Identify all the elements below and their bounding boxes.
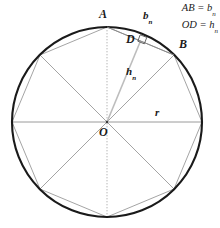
label-center-o: O xyxy=(99,126,108,138)
chord-ab xyxy=(107,27,174,55)
label-side-base: b xyxy=(143,9,149,21)
label-apothem-subscript: n xyxy=(132,74,136,82)
geometry-figure: A B D O r bn hn AB = bn OD = hn xyxy=(0,0,220,228)
legend-line-ab-subscript: n xyxy=(212,10,216,18)
label-point-d: D xyxy=(126,33,135,45)
point-marker-center-o xyxy=(106,121,108,123)
legend-line-od-text: OD = h xyxy=(182,19,215,30)
label-vertex-b: B xyxy=(179,38,187,50)
label-side-bn: bn xyxy=(143,10,152,24)
label-apothem-hn: hn xyxy=(126,66,136,80)
label-radius-r: r xyxy=(155,107,159,118)
label-vertex-a: A xyxy=(99,8,107,20)
legend-line-od-subscript: n xyxy=(215,27,219,35)
legend-definitions: AB = bn OD = hn xyxy=(182,1,218,34)
legend-line-od: OD = hn xyxy=(182,18,218,35)
legend-line-ab-text: AB = b xyxy=(182,2,212,13)
legend-line-ab: AB = bn xyxy=(182,1,218,18)
label-side-subscript: n xyxy=(149,18,153,26)
geometry-canvas xyxy=(0,0,220,228)
